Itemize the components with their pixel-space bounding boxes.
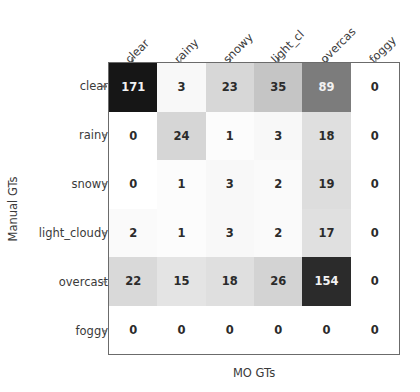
heatmap-cell-value: 0 [129, 177, 137, 191]
heatmap-plot-area: 1713233589002413180013219021321702215182… [108, 62, 400, 355]
heatmap-cell: 89 [302, 63, 350, 112]
heatmap-cell: 154 [302, 257, 350, 306]
heatmap-cell: 3 [157, 63, 205, 112]
y-axis-tick-mark [102, 281, 107, 282]
heatmap-cell-value: 0 [371, 129, 379, 143]
heatmap-cell: 0 [157, 306, 205, 355]
heatmap-cell-value: 171 [121, 80, 145, 94]
x-axis-title: MO GTs [108, 366, 400, 380]
heatmap-cell: 3 [206, 209, 254, 258]
heatmap-cell: 24 [157, 112, 205, 161]
heatmap-cell-value: 0 [322, 323, 330, 337]
heatmap-cell: 0 [351, 209, 399, 258]
heatmap-cell: 22 [109, 257, 157, 306]
heatmap-cell-value: 0 [274, 323, 282, 337]
heatmap-cell: 1 [157, 209, 205, 258]
heatmap-cell-value: 1 [177, 177, 185, 191]
heatmap-cell: 0 [351, 112, 399, 161]
x-axis-tick-labels: clearrainysnowylight_clovercasfoggy [0, 0, 420, 62]
heatmap-cell: 19 [302, 160, 350, 209]
heatmap-cell: 35 [254, 63, 302, 112]
y-axis-tick-labels: clearrainysnowylight_cloudyovercastfoggy [0, 62, 108, 355]
heatmap-cell: 2 [254, 160, 302, 209]
heatmap-cell-value: 3 [226, 226, 234, 240]
heatmap-cell: 2 [109, 209, 157, 258]
heatmap-cell: 0 [351, 160, 399, 209]
y-axis-tick-mark [102, 183, 107, 184]
heatmap-cell-value: 2 [274, 177, 282, 191]
heatmap-cell: 171 [109, 63, 157, 112]
y-axis-tick-label: overcast [8, 275, 108, 289]
x-axis-tick-label: overcas [317, 24, 359, 62]
heatmap-cell-value: 3 [274, 129, 282, 143]
heatmap-cell-value: 35 [270, 80, 286, 94]
heatmap-cell: 15 [157, 257, 205, 306]
heatmap-cell: 1 [157, 160, 205, 209]
heatmap-cell-value: 2 [129, 226, 137, 240]
heatmap-cell-value: 0 [177, 323, 185, 337]
heatmap-cell-value: 22 [125, 274, 141, 288]
heatmap-cell-value: 19 [318, 177, 334, 191]
confusion-matrix-figure: Manual GTs clearrainysnowylight_cloudyov… [0, 0, 420, 392]
heatmap-cell-value: 0 [226, 323, 234, 337]
y-axis-tick-label: light_cloudy [8, 226, 108, 240]
heatmap-cell-value: 0 [371, 80, 379, 94]
heatmap-cell-value: 3 [177, 80, 185, 94]
y-axis-tick-mark [102, 135, 107, 136]
heatmap-cell-value: 1 [226, 129, 234, 143]
heatmap-cell-value: 2 [274, 226, 282, 240]
heatmap-cell: 0 [206, 306, 254, 355]
heatmap-cell-value: 0 [129, 323, 137, 337]
heatmap-cell: 26 [254, 257, 302, 306]
heatmap-cell: 18 [302, 112, 350, 161]
heatmap-cell-value: 18 [222, 274, 238, 288]
heatmap-cell-value: 15 [173, 274, 189, 288]
heatmap-cell: 0 [351, 63, 399, 112]
heatmap-cell-value: 17 [318, 226, 334, 240]
heatmap-cell: 3 [206, 160, 254, 209]
heatmap-cell-value: 89 [318, 80, 334, 94]
heatmap-cell: 1 [206, 112, 254, 161]
y-axis-tick-label: rainy [8, 128, 108, 142]
y-axis-tick-label: foggy [8, 324, 108, 338]
heatmap-cell: 0 [109, 306, 157, 355]
x-axis-tick-label: clear [122, 36, 152, 62]
heatmap-cell-value: 0 [371, 274, 379, 288]
heatmap-cell: 18 [206, 257, 254, 306]
x-axis-tick-label: light_cl [268, 27, 307, 62]
heatmap-cell-value: 18 [318, 129, 334, 143]
heatmap-cell: 17 [302, 209, 350, 258]
heatmap-cell-value: 0 [129, 129, 137, 143]
heatmap-cell: 0 [351, 306, 399, 355]
y-axis-tick-mark [102, 330, 107, 331]
y-axis-tick-label: snowy [8, 177, 108, 191]
heatmap-cell-value: 1 [177, 226, 185, 240]
x-axis-tick-label: foggy [366, 33, 399, 62]
heatmap-grid: 1713233589002413180013219021321702215182… [109, 63, 399, 354]
x-axis-tick-label: rainy [171, 36, 201, 62]
heatmap-cell: 0 [351, 257, 399, 306]
heatmap-cell-value: 0 [371, 323, 379, 337]
heatmap-cell-value: 26 [270, 274, 286, 288]
heatmap-cell: 3 [254, 112, 302, 161]
heatmap-cell: 0 [109, 160, 157, 209]
heatmap-cell-value: 23 [222, 80, 238, 94]
y-axis-tick-mark [102, 86, 107, 87]
x-axis-tick-label: snowy [220, 30, 256, 62]
heatmap-cell-value: 24 [173, 129, 189, 143]
heatmap-cell-value: 0 [371, 177, 379, 191]
y-axis-tick-mark [102, 232, 107, 233]
heatmap-cell: 0 [109, 112, 157, 161]
heatmap-cell-value: 0 [371, 226, 379, 240]
heatmap-cell: 0 [254, 306, 302, 355]
heatmap-cell-value: 3 [226, 177, 234, 191]
heatmap-cell: 0 [302, 306, 350, 355]
heatmap-cell: 2 [254, 209, 302, 258]
y-axis-tick-label: clear [8, 79, 108, 93]
heatmap-cell-value: 154 [314, 274, 338, 288]
heatmap-cell: 23 [206, 63, 254, 112]
